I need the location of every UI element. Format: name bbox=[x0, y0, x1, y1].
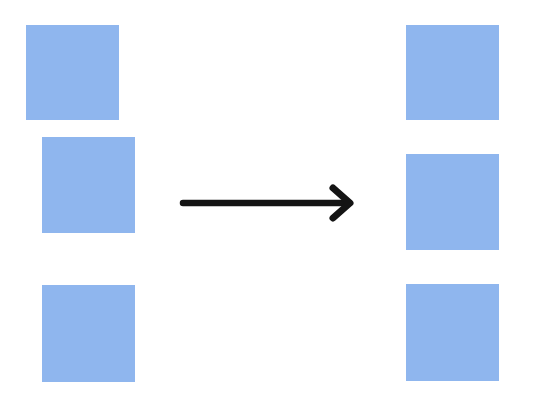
after-square-3 bbox=[406, 284, 499, 381]
arrow-head bbox=[333, 188, 350, 218]
before-square-3 bbox=[42, 285, 135, 382]
before-square-1 bbox=[26, 25, 119, 120]
before-square-2 bbox=[42, 137, 135, 233]
after-square-1 bbox=[406, 25, 499, 120]
after-square-2 bbox=[406, 154, 499, 250]
